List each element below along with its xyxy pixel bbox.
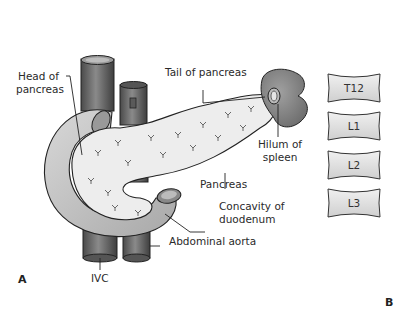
label-concavity-2: duodenum bbox=[219, 213, 275, 225]
label-pancreas: Pancreas bbox=[200, 178, 247, 190]
label-hilum-2: spleen bbox=[256, 151, 304, 163]
vertebra-l2: L2 bbox=[328, 151, 380, 181]
label-hilum-1: Hilum of bbox=[256, 138, 304, 150]
label-head-of-pancreas-1: Head of bbox=[18, 70, 59, 82]
label-head-of-pancreas-2: pancreas bbox=[16, 83, 64, 95]
label-abdominal-aorta: Abdominal aorta bbox=[169, 235, 256, 247]
label-concavity-1: Concavity of bbox=[219, 200, 285, 212]
panel-label-a: A bbox=[18, 273, 27, 286]
vertebra-t12: T12 bbox=[328, 74, 380, 104]
panel-label-b: B bbox=[385, 296, 393, 309]
label-tail-of-pancreas: Tail of pancreas bbox=[165, 66, 247, 78]
label-ivc: IVC bbox=[91, 272, 109, 284]
vertebra-l1: L1 bbox=[328, 112, 380, 142]
pancreas-anatomy-figure: Head of pancreas Tail of pancreas Hilum … bbox=[0, 0, 401, 309]
vertebra-l3: L3 bbox=[328, 189, 380, 219]
